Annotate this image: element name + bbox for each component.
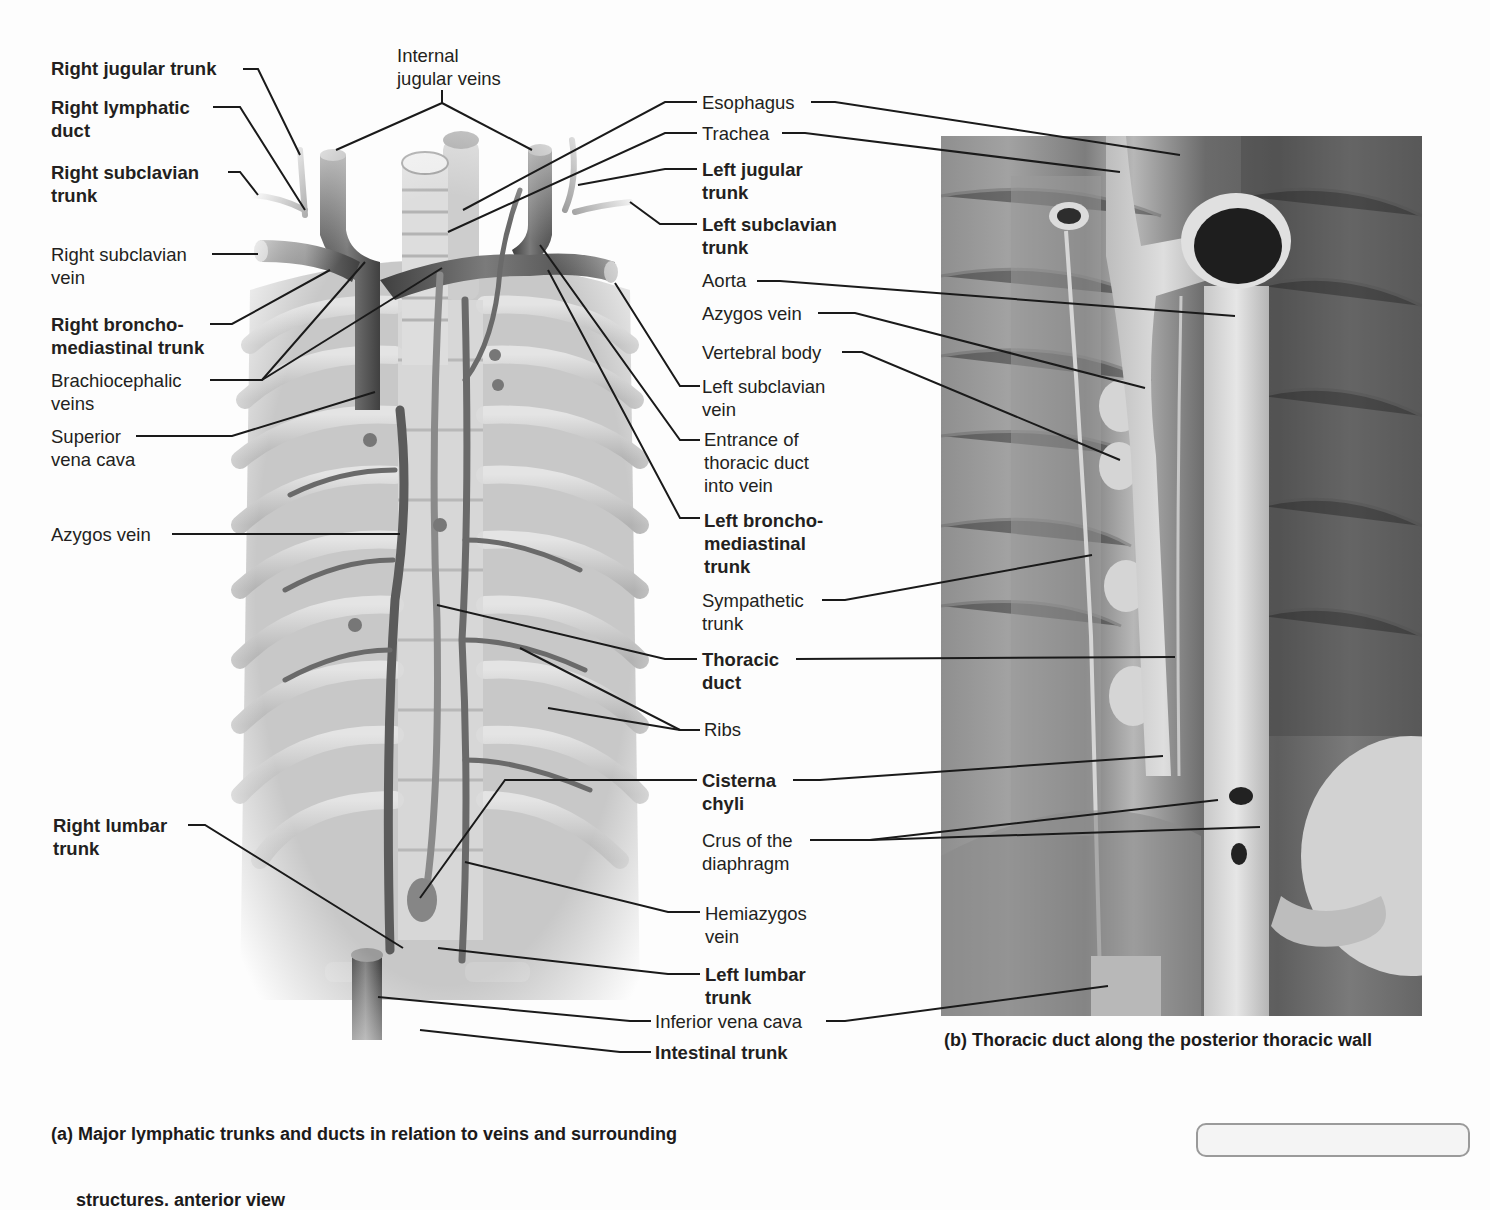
leader-line-thoracic-duct [796, 657, 1175, 659]
label-left-bronchomediastinal-trunk: Left broncho- mediastinal trunk [704, 509, 823, 578]
label-thoracic-duct: Thoracic duct [702, 648, 779, 694]
leader-line-crus-of-diaphragm [810, 800, 1218, 840]
label-vertebral-body: Vertebral body [702, 341, 821, 364]
label-right-subclavian-vein: Right subclavian vein [51, 243, 187, 289]
label-right-lumbar-trunk: Right lumbar trunk [53, 814, 167, 860]
leader-line-sympathetic-trunk [822, 555, 1092, 600]
label-left-subclavian-vein: Left subclavian vein [702, 375, 825, 421]
label-left-subclavian-trunk: Left subclavian trunk [702, 213, 837, 259]
caption-a-line1: (a) Major lymphatic trunks and ducts in … [51, 1123, 677, 1145]
label-superior-vena-cava: Superior vena cava [51, 425, 135, 471]
label-inferior-vena-cava: Inferior vena cava [655, 1010, 802, 1033]
label-entrance-thoracic-duct: Entrance of thoracic duct into vein [704, 428, 809, 497]
label-sympathetic-trunk: Sympathetic trunk [702, 589, 804, 635]
bottom-tab-box [1196, 1123, 1470, 1157]
label-azygos-vein-a: Azygos vein [51, 523, 151, 546]
label-esophagus: Esophagus [702, 91, 795, 114]
label-internal-jugular-veins: Internal jugular veins [397, 44, 501, 90]
label-cisterna-chyli: Cisterna chyli [702, 769, 776, 815]
label-left-jugular-trunk: Left jugular trunk [702, 158, 803, 204]
label-right-bronchomediastinal-trunk: Right broncho- mediastinal trunk [51, 313, 204, 359]
label-crus-of-diaphragm: Crus of the diaphragm [702, 829, 793, 875]
label-right-lymphatic-duct: Right lymphatic duct [51, 96, 190, 142]
label-trachea: Trachea [702, 122, 769, 145]
caption-panel-b: (b) Thoracic duct along the posterior th… [944, 1029, 1372, 1051]
leader-line-cisterna-chyli [793, 756, 1163, 780]
label-right-jugular-trunk: Right jugular trunk [51, 57, 216, 80]
label-azygos-vein-b: Azygos vein [702, 302, 802, 325]
label-aorta: Aorta [702, 269, 746, 292]
label-intestinal-trunk: Intestinal trunk [655, 1041, 788, 1064]
leader-line-vertebral-body [842, 352, 1120, 460]
leader-line-azygos-vein-b [818, 313, 1145, 388]
leader-line-aorta [757, 281, 1235, 316]
caption-a-line2: structures. anterior view [51, 1189, 677, 1210]
leader-line-esophagus [811, 102, 1180, 155]
label-hemiazygos-vein: Hemiazygos vein [705, 902, 807, 948]
leader-line-inferior-vena-cava [826, 986, 1108, 1021]
caption-panel-a: (a) Major lymphatic trunks and ducts in … [51, 1079, 677, 1210]
label-brachiocephalic-veins: Brachiocephalic veins [51, 369, 182, 415]
label-left-lumbar-trunk: Left lumbar trunk [705, 963, 806, 1009]
label-right-subclavian-trunk: Right subclavian trunk [51, 161, 199, 207]
label-ribs: Ribs [704, 718, 741, 741]
